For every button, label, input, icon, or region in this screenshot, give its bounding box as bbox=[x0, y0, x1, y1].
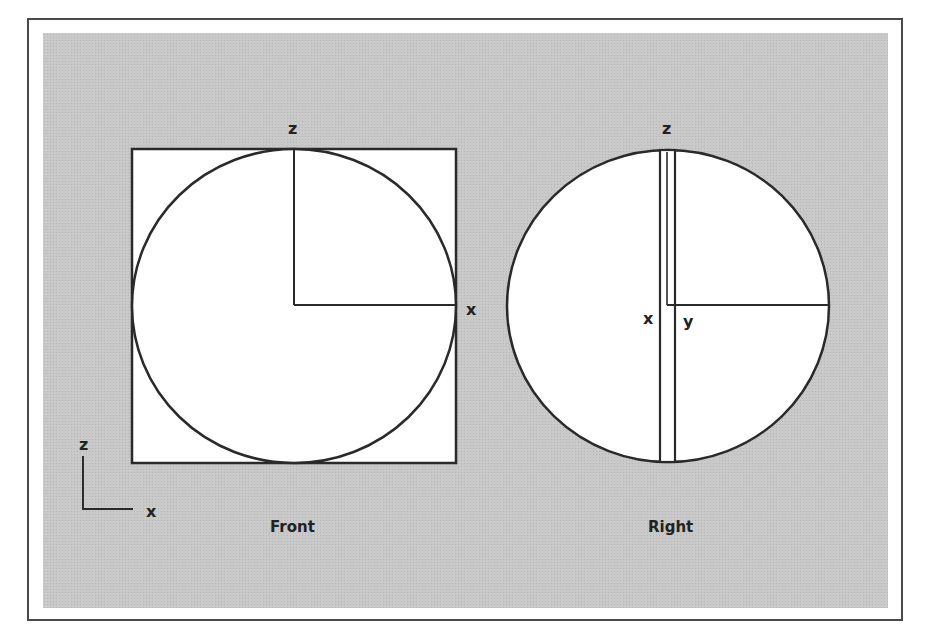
axis-indicator-lines bbox=[83, 456, 133, 509]
front-z-label: z bbox=[288, 119, 297, 138]
right-x-label: x bbox=[643, 309, 654, 328]
right-view: z x y Right bbox=[507, 119, 829, 536]
front-x-label: x bbox=[466, 300, 477, 319]
orthographic-diagram: z x Front z x y Right z x bbox=[0, 0, 928, 640]
axis-indicator-z-label: z bbox=[79, 435, 88, 454]
right-z-label: z bbox=[662, 119, 671, 138]
front-view: z x Front bbox=[132, 119, 477, 536]
right-y-label: y bbox=[683, 312, 694, 331]
axis-indicator-x-label: x bbox=[146, 502, 157, 521]
right-caption: Right bbox=[648, 518, 693, 536]
front-caption: Front bbox=[270, 518, 315, 536]
